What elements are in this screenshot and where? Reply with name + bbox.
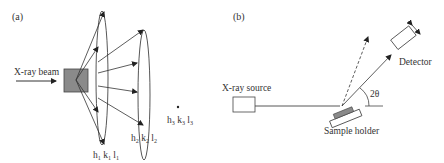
beam-label: X-ray beam xyxy=(14,67,60,77)
dashed-beam-arrow xyxy=(342,37,368,106)
panel-b: (b) X-ray source Sample holder 2θ Detect… xyxy=(222,11,433,136)
cone-1-label: h1 k1 l1 xyxy=(93,150,119,162)
diffracted-beam-arrow xyxy=(342,55,391,106)
angle-label: 2θ xyxy=(370,89,380,99)
xrd-diagram: (a) X-ray beam h1 k1 l1 h2 k2 xyxy=(0,0,444,163)
source-label: X-ray source xyxy=(222,83,271,93)
panel-a-label: (a) xyxy=(12,11,23,23)
detector xyxy=(391,26,417,50)
cone-3-label: h3 k3 l3 xyxy=(167,115,193,127)
diffraction-cone-1 xyxy=(96,11,108,145)
diffraction-spot-3 xyxy=(177,106,179,108)
panel-b-label: (b) xyxy=(233,11,245,23)
cone-2-label: h2 k2 l2 xyxy=(131,133,157,145)
xray-source-box xyxy=(233,97,255,112)
panel-a: (a) X-ray beam h1 k1 l1 h2 k2 xyxy=(12,11,193,162)
sample-label: Sample holder xyxy=(324,126,380,136)
detector-label: Detector xyxy=(399,57,433,67)
sample-holder xyxy=(328,105,362,128)
angle-arc xyxy=(360,88,369,106)
